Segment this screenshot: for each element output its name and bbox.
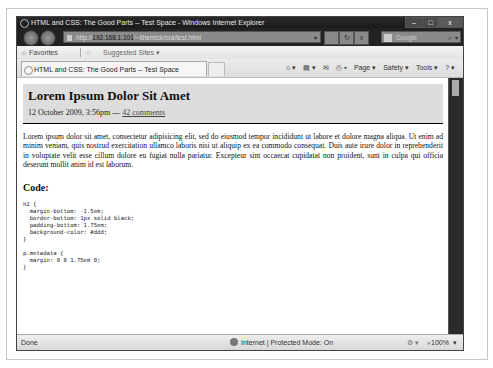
ie-window: HTML and CSS: The Good Parts -- Test Spa… xyxy=(16,16,464,351)
command-bar: ⌂ ▾ ▤ ▾ ✉ ⎙ ▾ Page ▾ Safety ▾ Tools ▾ ? … xyxy=(281,59,455,77)
search-dropdown-icon[interactable]: ▾ xyxy=(455,32,458,44)
favorites-bar: ☆ Favorites ☆ Suggested Sites ▾ xyxy=(17,46,463,59)
url-path: /~lthemick/ora/test.html xyxy=(134,34,201,41)
ie-page-icon xyxy=(24,66,33,75)
page-icon xyxy=(67,35,72,41)
add-to-favorites-icon[interactable]: ☆ xyxy=(85,46,91,59)
address-dropdown-icon[interactable]: ▾ xyxy=(314,32,317,43)
tools-menu[interactable]: Tools ▾ xyxy=(416,64,438,71)
metadata: 12 October 2009, 3:56pm — 42 comments xyxy=(28,108,438,117)
status-text: Done xyxy=(21,335,38,350)
maximize-icon: □ xyxy=(423,18,438,27)
code-heading: Code: xyxy=(23,182,443,193)
page-content: Lorem Ipsum Dolor Sit Amet 12 October 20… xyxy=(17,78,449,335)
window-title: HTML and CSS: The Good Parts -- Test Spa… xyxy=(31,19,264,26)
zone-label: Internet | Protected Mode: On xyxy=(241,339,333,346)
search-input[interactable]: Google ⌕ ▾ xyxy=(381,31,461,43)
minimize-icon: – xyxy=(406,18,422,27)
title-bar: HTML and CSS: The Good Parts -- Test Spa… xyxy=(17,17,463,28)
search-provider-icon xyxy=(384,34,392,42)
help-menu[interactable]: ? ▾ xyxy=(445,64,455,71)
tab-active[interactable]: HTML and CSS: The Good Parts -- Test Spa… xyxy=(21,61,207,76)
feeds-button[interactable]: ▤ ▾ xyxy=(303,64,316,71)
safety-menu[interactable]: Safety ▾ xyxy=(383,64,409,71)
search-placeholder: Google xyxy=(396,34,417,41)
vertical-scrollbar[interactable] xyxy=(448,78,463,335)
article-header: Lorem Ipsum Dolor Sit Amet 12 October 20… xyxy=(23,84,443,124)
new-tab-button[interactable] xyxy=(208,62,225,76)
close-icon: x xyxy=(438,18,462,27)
print-button[interactable]: ⎙ ▾ xyxy=(336,64,347,71)
url-scheme: http:// xyxy=(76,34,92,41)
tab-label: HTML and CSS: The Good Parts -- Test Spa… xyxy=(34,66,179,73)
zoom-dropdown-icon[interactable]: ▾ xyxy=(453,335,457,350)
security-zone[interactable]: Internet | Protected Mode: On xyxy=(230,335,333,350)
navigation-bar: http://192.168.1.101/~lthemick/ora/test.… xyxy=(17,28,463,46)
scrollbar-thumb[interactable] xyxy=(452,80,459,96)
refresh-button[interactable]: ↻ xyxy=(339,31,354,45)
compatibility-view-button[interactable] xyxy=(324,31,339,45)
stop-button[interactable]: x xyxy=(354,31,369,45)
home-button[interactable]: ⌂ ▾ xyxy=(286,64,296,71)
mail-button[interactable]: ✉ xyxy=(323,64,329,71)
page-menu[interactable]: Page ▾ xyxy=(354,64,376,71)
code-block: h2 { margin-bottom: -1.5em; border-botto… xyxy=(23,201,443,271)
status-bar: Done Internet | Protected Mode: On ⚙ ▾ ⌕… xyxy=(17,334,463,350)
comments-link[interactable]: 42 comments xyxy=(122,108,165,117)
address-input[interactable]: http://192.168.1.101/~lthemick/ora/test.… xyxy=(63,31,321,43)
tab-bar: HTML and CSS: The Good Parts -- Test Spa… xyxy=(17,59,463,78)
search-icon[interactable]: ⌕ xyxy=(448,32,452,44)
suggested-sites-button[interactable]: Suggested Sites ▾ xyxy=(103,46,160,59)
close-button[interactable]: x xyxy=(437,17,463,28)
url-host: 192.168.1.101 xyxy=(92,34,134,41)
forward-button[interactable] xyxy=(40,30,56,46)
divider xyxy=(80,48,81,57)
page-title: Lorem Ipsum Dolor Sit Amet xyxy=(28,88,438,104)
zoom-level-button[interactable]: ⌕100% xyxy=(427,335,449,350)
ie-logo-icon xyxy=(20,19,29,28)
minimize-button[interactable]: – xyxy=(405,17,423,28)
security-settings-button[interactable]: ⚙ ▾ xyxy=(407,335,419,350)
favorites-button[interactable]: ☆ Favorites xyxy=(21,46,58,59)
post-date: 12 October 2009, 3:56pm — xyxy=(28,108,122,117)
globe-icon xyxy=(230,338,238,346)
body-paragraph: Lorem ipsum dolor sit amet, consectetur … xyxy=(23,132,443,170)
back-button[interactable] xyxy=(23,30,39,46)
